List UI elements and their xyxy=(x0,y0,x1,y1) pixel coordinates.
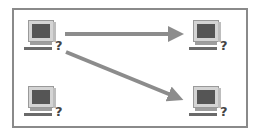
computer-icon xyxy=(193,86,219,108)
computer-bottom-left: ? xyxy=(24,86,64,120)
computer-icon xyxy=(193,20,219,42)
question-mark: ? xyxy=(55,39,63,52)
question-mark: ? xyxy=(55,105,63,118)
arrow-top-left-to-bottom-right xyxy=(66,52,176,97)
computer-bottom-right: ? xyxy=(189,86,229,120)
question-mark: ? xyxy=(220,105,228,118)
question-mark: ? xyxy=(220,39,228,52)
computer-icon xyxy=(28,20,54,42)
computer-top-left: ? xyxy=(24,20,64,54)
computer-icon xyxy=(28,86,54,108)
computer-top-right: ? xyxy=(189,20,229,54)
